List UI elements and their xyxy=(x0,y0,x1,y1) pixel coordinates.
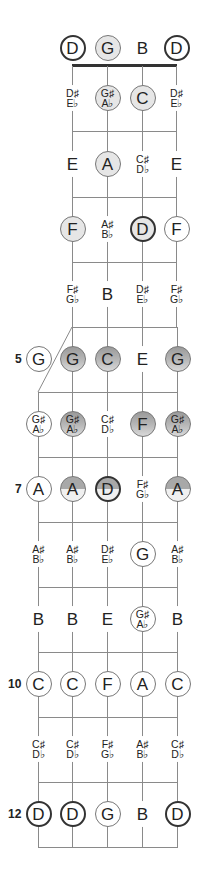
note-b: B xyxy=(60,606,86,632)
note-csharp-dflat: C♯D♭ xyxy=(95,411,121,437)
note-label: A xyxy=(67,481,78,498)
fret-line xyxy=(38,587,178,588)
note-c: C xyxy=(95,346,121,372)
note-label: D xyxy=(66,806,78,823)
note-label: E xyxy=(137,351,148,368)
note-label: G xyxy=(136,546,149,563)
note-label: D xyxy=(136,221,148,238)
note-d: D xyxy=(164,35,190,61)
note-label: F xyxy=(137,416,147,433)
note-label: B xyxy=(102,286,113,303)
fret-number: 12 xyxy=(8,807,21,821)
note-dsharp-eflat: D♯E♭ xyxy=(164,85,190,111)
note-label: E xyxy=(67,156,78,173)
note-label: B xyxy=(172,611,183,628)
fretboard-diagram: DGBDD♯E♭G♯A♭CD♯E♭EAC♯D♭EFA♯B♭DFF♯G♭BD♯E♭… xyxy=(0,0,203,881)
note-label: C xyxy=(136,90,148,107)
note-d: D xyxy=(130,216,156,242)
flat-name: B♭ xyxy=(171,554,183,564)
note-gsharp-aflat: G♯A♭ xyxy=(165,411,191,437)
note-label: G xyxy=(101,40,114,57)
note-g: G xyxy=(130,541,156,567)
note-label: F xyxy=(67,221,77,238)
note-a: A xyxy=(165,476,191,502)
flat-name: E♭ xyxy=(136,294,148,304)
note-asharp-bflat: A♯B♭ xyxy=(26,541,52,567)
note-gsharp-aflat: G♯A♭ xyxy=(130,606,156,632)
flat-name: G♭ xyxy=(136,489,149,499)
fret-number: 10 xyxy=(8,677,21,691)
note-gsharp-aflat: G♯A♭ xyxy=(26,411,52,437)
note-label: E xyxy=(102,611,113,628)
flat-name: D♭ xyxy=(32,749,45,759)
note-label: A xyxy=(172,481,183,498)
note-a: A xyxy=(130,671,156,697)
note-e: E xyxy=(130,346,156,372)
flat-name: E♭ xyxy=(101,554,113,564)
note-label: D xyxy=(170,40,182,57)
note-g: G xyxy=(26,346,52,372)
flat-name: G♭ xyxy=(66,294,79,304)
note-f: F xyxy=(130,411,156,437)
flat-name: B♭ xyxy=(32,554,44,564)
note-dsharp-eflat: D♯E♭ xyxy=(60,85,86,111)
note-label: F xyxy=(171,221,181,238)
fret-number: 7 xyxy=(15,482,22,496)
flat-name: E♭ xyxy=(66,98,78,108)
note-a: A xyxy=(60,476,86,502)
flat-name: A♭ xyxy=(101,98,113,108)
flat-name: A♭ xyxy=(32,424,44,434)
note-csharp-dflat: C♯D♭ xyxy=(165,736,191,762)
note-label: C xyxy=(101,351,113,368)
note-f: F xyxy=(60,216,86,242)
note-e: E xyxy=(60,151,86,177)
note-f: F xyxy=(164,216,190,242)
note-b: B xyxy=(95,281,121,307)
note-label: D xyxy=(66,40,78,57)
note-label: B xyxy=(67,611,78,628)
note-gsharp-aflat: G♯A♭ xyxy=(60,411,86,437)
note-asharp-bflat: A♯B♭ xyxy=(165,541,191,567)
flat-name: G♭ xyxy=(101,749,114,759)
note-label: C xyxy=(171,676,183,693)
flat-name: B♭ xyxy=(101,229,113,239)
note-label: B xyxy=(137,806,148,823)
note-dsharp-eflat: D♯E♭ xyxy=(130,281,156,307)
fret-line xyxy=(38,522,178,523)
note-f: F xyxy=(95,671,121,697)
note-label: C xyxy=(66,676,78,693)
note-label: D xyxy=(171,806,183,823)
note-a: A xyxy=(95,151,121,177)
note-label: G xyxy=(32,351,45,368)
note-label: G xyxy=(101,806,114,823)
note-fsharp-gflat: F♯G♭ xyxy=(164,281,190,307)
note-c: C xyxy=(60,671,86,697)
note-c: C xyxy=(26,671,52,697)
flat-name: D♭ xyxy=(171,749,184,759)
fret-line-bottom xyxy=(38,847,178,848)
flat-name: D♭ xyxy=(101,424,114,434)
note-label: D xyxy=(101,481,113,498)
note-b: B xyxy=(165,606,191,632)
note-label: B xyxy=(33,611,44,628)
note-asharp-bflat: A♯B♭ xyxy=(60,541,86,567)
note-c: C xyxy=(165,671,191,697)
note-label: B xyxy=(137,40,148,57)
note-label: G xyxy=(171,351,184,368)
fret-line xyxy=(38,652,178,653)
note-label: G xyxy=(66,351,79,368)
note-b: B xyxy=(130,35,156,61)
fret-number: 5 xyxy=(15,352,22,366)
note-gsharp-aflat: G♯A♭ xyxy=(95,85,121,111)
note-d: D xyxy=(60,35,86,61)
note-d: D xyxy=(95,476,121,502)
fret-line xyxy=(38,782,178,783)
note-fsharp-gflat: F♯G♭ xyxy=(130,476,156,502)
note-fsharp-gflat: F♯G♭ xyxy=(60,281,86,307)
note-asharp-bflat: A♯B♭ xyxy=(95,216,121,242)
note-g: G xyxy=(60,346,86,372)
note-g: G xyxy=(165,346,191,372)
fret-line xyxy=(38,457,178,458)
note-e: E xyxy=(95,606,121,632)
note-dsharp-eflat: D♯E♭ xyxy=(95,541,121,567)
